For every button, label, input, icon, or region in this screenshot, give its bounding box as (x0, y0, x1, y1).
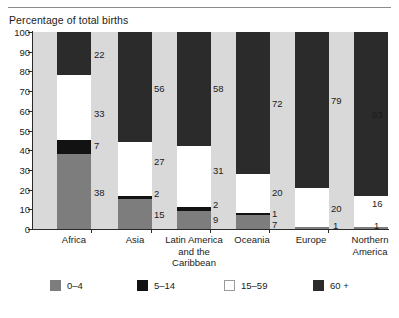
label-oceania-0-4: 7 (272, 219, 277, 230)
label-northern-60plus: 83 (372, 109, 383, 120)
label-europe-60plus: 79 (331, 95, 342, 106)
legend-label-0-4: 0–4 (67, 280, 83, 291)
legend-item-15-59[interactable]: 15–59 (224, 280, 267, 291)
label-latin-15-59: 31 (213, 165, 224, 176)
label-latin-60plus: 58 (213, 83, 224, 94)
y-axis-ticks: 100 90 80 70 60 50 40 30 20 10 0 (0, 0, 30, 318)
bar-asia[interactable] (118, 32, 152, 229)
legend-label-15-59: 15–59 (241, 280, 267, 291)
label-oceania-15-59: 20 (272, 187, 283, 198)
label-latin-0-4: 9 (213, 214, 218, 225)
x-label-latin-america-caribbean: Latin America and the Caribbean (156, 234, 232, 269)
bar-northern-america[interactable] (354, 32, 388, 229)
segment-5-14 (57, 140, 91, 154)
label-oceania-5-14: 1 (272, 208, 277, 219)
segment-15-59 (236, 174, 270, 213)
label-asia-60plus: 56 (154, 83, 165, 94)
label-asia-5-14: 2 (154, 188, 159, 199)
label-northern-15-59: 16 (372, 198, 383, 209)
legend-swatch-5-14-icon (137, 280, 148, 291)
label-asia-15-59: 27 (154, 156, 165, 167)
segment-60-plus (57, 32, 91, 75)
legend-item-0-4[interactable]: 0–4 (50, 280, 83, 291)
legend-label-5-14: 5–14 (154, 280, 175, 291)
chart-legend: 0–4 5–14 15–59 60 + (0, 280, 399, 302)
segment-0-4 (118, 199, 152, 229)
chart-page: Percentage of total births 100 90 80 70 … (0, 0, 399, 318)
label-africa-0-4: 38 (94, 187, 105, 198)
label-northern-0-4: 1 (374, 220, 379, 231)
segment-60-plus (177, 32, 211, 146)
label-latin-5-14: 2 (213, 199, 218, 210)
segment-0-4 (354, 227, 388, 229)
segment-0-4 (236, 215, 270, 229)
legend-item-60-plus[interactable]: 60 + (313, 280, 349, 291)
bar-latin-america-caribbean[interactable] (177, 32, 211, 229)
segment-60-plus (236, 32, 270, 174)
segment-15-59 (118, 142, 152, 195)
legend-label-60-plus: 60 + (330, 280, 349, 291)
segment-15-59 (354, 196, 388, 228)
label-africa-15-59: 33 (94, 108, 105, 119)
x-label-northern-america: Northern America (339, 234, 399, 257)
bar-africa[interactable] (57, 32, 91, 229)
label-asia-0-4: 15 (154, 209, 165, 220)
label-europe-0-4: 1 (333, 220, 338, 231)
bar-group (33, 32, 388, 229)
segment-60-plus (354, 32, 388, 196)
segment-0-4 (177, 211, 211, 229)
segment-60-plus (118, 32, 152, 142)
header-divider (8, 7, 391, 8)
bar-europe[interactable] (295, 32, 329, 229)
label-africa-60plus: 22 (94, 49, 105, 60)
label-oceania-60plus: 72 (272, 98, 283, 109)
legend-item-5-14[interactable]: 5–14 (137, 280, 175, 291)
label-europe-15-59: 20 (331, 203, 342, 214)
segment-0-4 (57, 154, 91, 229)
segment-0-4 (295, 227, 329, 229)
x-label-oceania: Oceania (222, 234, 282, 246)
legend-swatch-15-59-icon (224, 280, 235, 291)
segment-60-plus (295, 32, 329, 188)
x-label-europe: Europe (281, 234, 341, 246)
legend-swatch-60-plus-icon (313, 280, 324, 291)
segment-15-59 (295, 188, 329, 227)
bar-oceania[interactable] (236, 32, 270, 229)
segment-15-59 (57, 75, 91, 140)
legend-swatch-0-4-icon (50, 280, 61, 291)
segment-15-59 (177, 146, 211, 207)
label-africa-5-14: 7 (94, 140, 99, 151)
x-label-africa: Africa (44, 234, 104, 246)
